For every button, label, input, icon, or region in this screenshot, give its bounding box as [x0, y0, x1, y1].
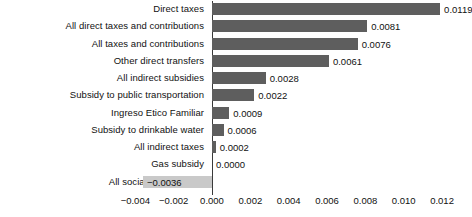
- bar-value-label: 0.0028: [270, 73, 299, 84]
- x-tick-label: −0.002: [159, 195, 188, 206]
- bar-value-label: 0.0006: [228, 125, 257, 136]
- x-tick-label: −0.004: [121, 195, 150, 206]
- x-tick-label: 0.010: [392, 195, 416, 206]
- bar: [212, 141, 216, 153]
- bar: [212, 72, 266, 84]
- x-tick-label: 0.008: [353, 195, 377, 206]
- bar-value-label: −0.0036: [147, 177, 182, 188]
- bar: [212, 89, 254, 101]
- x-tick-label: 0.000: [200, 195, 224, 206]
- bar-value-label: 0.0002: [220, 142, 249, 153]
- bar: [212, 124, 224, 136]
- x-tick-label: 0.004: [277, 195, 301, 206]
- x-tick-label: 0.002: [238, 195, 262, 206]
- x-tick-label: 0.006: [315, 195, 339, 206]
- bar-value-label: 0.0076: [362, 39, 391, 50]
- plot-area: 0.01190.00810.00760.00610.00280.00220.00…: [0, 0, 469, 189]
- bar: [212, 107, 229, 119]
- x-tick-label: 0.012: [430, 195, 454, 206]
- bar: [212, 3, 440, 15]
- bar-value-label: 0.0000: [216, 159, 245, 170]
- bar-value-label: 0.0081: [371, 21, 400, 32]
- bar: [212, 20, 367, 32]
- bar-value-label: 0.0022: [258, 90, 287, 101]
- bar-value-label: 0.0119: [444, 4, 472, 15]
- bar: [212, 55, 329, 67]
- bar-value-label: 0.0009: [233, 108, 262, 119]
- bar-value-label: 0.0061: [333, 56, 362, 67]
- x-axis: −0.004−0.0020.0000.0020.0040.0060.0080.0…: [0, 189, 469, 217]
- bar: [212, 38, 358, 50]
